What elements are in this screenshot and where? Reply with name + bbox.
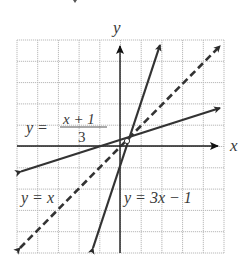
label-y-equals-x: y = x	[19, 189, 54, 207]
x-axis-label: x	[229, 136, 238, 155]
label-y-equals-3x-minus-1: y = 3x − 1	[122, 189, 192, 207]
cropped-glyph	[73, 0, 77, 3]
intersection-point	[124, 138, 129, 143]
label-fraction-numerator: x + 1	[62, 111, 95, 127]
y-axis-label: y	[111, 18, 121, 37]
label-fraction-denominator: 3	[78, 129, 86, 145]
label-fraction-lhs: y =	[24, 119, 48, 137]
graph-of-three-lines: y x y = x + 1 3 y = x y = 3x − 1	[0, 0, 243, 263]
